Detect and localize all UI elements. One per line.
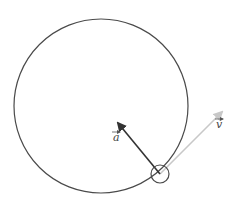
velocity-label-text: v — [216, 118, 223, 131]
velocity-label: v — [215, 118, 223, 131]
orbit-circle — [14, 19, 188, 193]
acceleration-vector — [118, 123, 160, 174]
velocity-vector — [160, 112, 222, 174]
acceleration-label-text: a — [113, 131, 120, 144]
acceleration-label: a — [112, 131, 120, 144]
circular-motion-diagram: a v — [0, 0, 234, 205]
